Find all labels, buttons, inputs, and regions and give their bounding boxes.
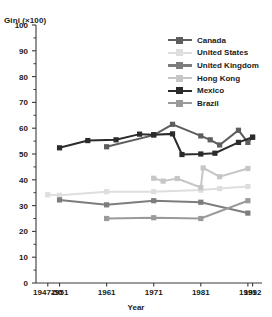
data-point — [245, 166, 250, 171]
data-point — [175, 176, 180, 181]
legend-swatch-icon — [168, 35, 192, 45]
x-tick-label: 1992 — [244, 288, 262, 297]
data-point — [198, 133, 203, 138]
data-point — [113, 137, 118, 142]
data-point — [104, 189, 109, 194]
y-tick-label: 100 — [2, 21, 28, 30]
y-tick-label: 50 — [2, 150, 28, 159]
data-point — [198, 200, 203, 205]
data-point — [151, 132, 156, 137]
data-point — [170, 131, 175, 136]
x-tick-label: 1981 — [192, 288, 210, 297]
legend-item-brazil[interactable]: Brazil — [168, 97, 259, 110]
y-tick-label: 40 — [2, 175, 28, 184]
legend-label: Canada — [197, 36, 226, 45]
y-tick-label: 60 — [2, 124, 28, 133]
data-point — [85, 138, 90, 143]
chart-legend: CanadaUnited StatesUnited KingdomHong Ko… — [168, 34, 259, 110]
data-point — [57, 145, 62, 150]
data-point — [245, 184, 250, 189]
legend-swatch-icon — [168, 48, 192, 58]
legend-label: Hong Kong — [197, 74, 240, 83]
y-tick-label: 80 — [2, 72, 28, 81]
data-point — [57, 193, 62, 198]
data-point — [104, 202, 109, 207]
y-tick-label: 90 — [2, 46, 28, 55]
legend-swatch-icon — [168, 98, 192, 108]
data-point — [212, 151, 217, 156]
x-tick-label: 1961 — [98, 288, 116, 297]
series-mexico — [57, 131, 255, 157]
x-tick-label: 1951 — [51, 288, 69, 297]
data-point — [245, 198, 250, 203]
data-point — [236, 140, 241, 145]
y-tick-label: 30 — [2, 201, 28, 210]
gini-line-chart: Gini (×100) Year 0102030405060708090100 … — [0, 0, 272, 317]
data-point — [104, 144, 109, 149]
data-point — [179, 152, 184, 157]
y-tick-label: 20 — [2, 227, 28, 236]
data-point — [201, 165, 206, 170]
data-point — [217, 174, 222, 179]
legend-label: Mexico — [197, 86, 224, 95]
series-united-kingdom — [57, 197, 251, 215]
legend-label: Brazil — [197, 99, 219, 108]
data-point — [198, 216, 203, 221]
legend-label: United States — [197, 48, 248, 57]
data-point — [161, 178, 166, 183]
data-point — [104, 216, 109, 221]
legend-swatch-icon — [168, 86, 192, 96]
data-point — [245, 210, 250, 215]
legend-swatch-icon — [168, 73, 192, 83]
data-point — [170, 122, 175, 127]
legend-item-united-kingdom[interactable]: United Kingdom — [168, 59, 259, 72]
data-point — [151, 176, 156, 181]
legend-item-hong-kong[interactable]: Hong Kong — [168, 72, 259, 85]
x-tick-label: 1971 — [145, 288, 163, 297]
data-point — [250, 135, 255, 140]
data-point — [198, 151, 203, 156]
legend-item-canada[interactable]: Canada — [168, 34, 259, 47]
y-tick-label: 10 — [2, 253, 28, 262]
data-point — [198, 185, 203, 190]
data-point — [217, 186, 222, 191]
data-point — [151, 215, 156, 220]
data-point — [45, 192, 50, 197]
data-point — [137, 132, 142, 137]
data-point — [208, 137, 213, 142]
series-united-states — [45, 184, 250, 198]
data-point — [151, 198, 156, 203]
legend-item-united-states[interactable]: United States — [168, 47, 259, 60]
data-point — [236, 128, 241, 133]
y-tick-label: 70 — [2, 98, 28, 107]
legend-item-mexico[interactable]: Mexico — [168, 84, 259, 97]
y-tick-label: 0 — [2, 279, 28, 288]
data-point — [151, 189, 156, 194]
data-point — [217, 142, 222, 147]
legend-label: United Kingdom — [197, 61, 259, 70]
legend-swatch-icon — [168, 60, 192, 70]
data-point — [57, 197, 62, 202]
